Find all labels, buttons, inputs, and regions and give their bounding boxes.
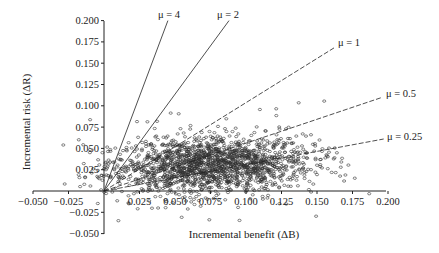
y-tick-label: −0.050 — [69, 228, 99, 239]
y-tick-label: 0.175 — [75, 36, 99, 47]
x-tick-label: 0.150 — [305, 196, 329, 207]
y-tick-label: 0.200 — [75, 15, 99, 26]
y-axis-title: Incremental risk (ΔR) — [20, 74, 33, 171]
x-tick-label: 0.100 — [234, 196, 258, 207]
y-tick-label: 0.075 — [75, 122, 99, 133]
mu-1-label: μ = 1 — [338, 37, 360, 48]
x-axis-title: Incremental benefit (ΔB) — [189, 228, 300, 241]
x-tick-label: 0.075 — [199, 196, 223, 207]
x-tick-label: 0.050 — [163, 196, 187, 207]
x-tick-label: 0.200 — [376, 196, 400, 207]
mu-4-label: μ = 4 — [158, 9, 181, 20]
mu-05-label: μ = 0.5 — [386, 88, 416, 99]
risk-benefit-scatter-chart: −0.050−0.0250.0250.0500.0750.1000.1250.1… — [0, 0, 439, 253]
y-tick-label: −0.025 — [69, 207, 99, 218]
mu-2-label: μ = 2 — [217, 9, 239, 20]
y-tick-label: 0.050 — [75, 143, 99, 154]
y-tick-label: 0.025 — [75, 164, 99, 175]
mu-025-label: μ = 0.25 — [387, 131, 422, 142]
x-tick-label: 0.175 — [341, 196, 365, 207]
y-tick-label: 0.125 — [75, 79, 99, 90]
y-tick-label: 0.100 — [75, 100, 99, 111]
y-tick-label: 0.150 — [75, 58, 99, 69]
x-tick-label: −0.025 — [54, 196, 84, 207]
x-tick-label: −0.050 — [18, 196, 48, 207]
axis-ticks: −0.050−0.0250.0250.0500.0750.1000.1250.1… — [18, 15, 400, 239]
x-tick-label: 0.125 — [270, 196, 294, 207]
x-tick-label: 0.025 — [128, 196, 152, 207]
